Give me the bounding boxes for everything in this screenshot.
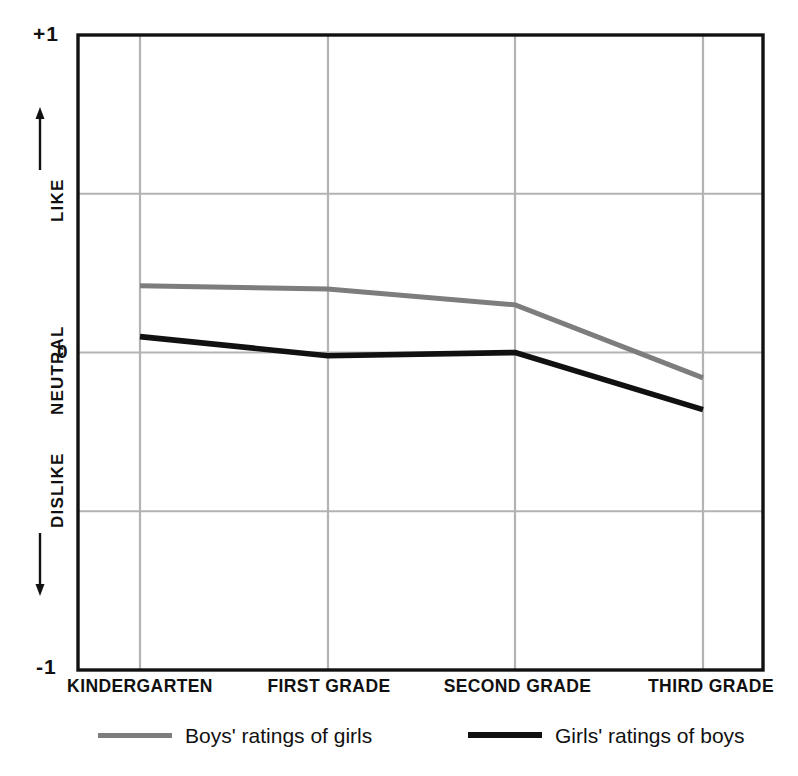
plot-area (0, 0, 798, 776)
legend-swatch-black-line-icon (468, 732, 542, 738)
legend-label-boys-ratings-of-girls: Boys' ratings of girls (185, 725, 372, 746)
y-axis-top-label: +1 (33, 22, 59, 46)
x-axis-label-first-grade: FIRST GRADE (254, 676, 404, 697)
legend-label-girls-ratings-of-boys: Girls' ratings of boys (555, 725, 745, 746)
y-axis-zero-label: 0 (57, 341, 68, 363)
line-chart: +1 -1 LIKE NEUTRAL DISLIKE 0 KINDERGARTE… (0, 0, 798, 776)
dislike-arrow-head-icon (36, 584, 45, 596)
y-axis-neutral-label: NEUTRAL (48, 325, 68, 415)
like-arrow-head-icon (36, 107, 45, 119)
legend-item-girls-ratings-of-boys: Girls' ratings of boys (468, 718, 745, 752)
legend: Boys' ratings of girls Girls' ratings of… (78, 718, 768, 758)
x-axis-label-kindergarten: KINDERGARTEN (54, 676, 226, 697)
legend-swatch-gray-line-icon (98, 733, 172, 738)
legend-item-boys-ratings-of-girls: Boys' ratings of girls (98, 718, 372, 752)
x-axis-label-second-grade: SECOND GRADE (430, 676, 605, 697)
y-axis-dislike-label: DISLIKE (48, 453, 68, 528)
series-line-boys-ratings-of-girls (140, 286, 703, 378)
x-axis-label-third-grade: THIRD GRADE (632, 676, 790, 697)
y-axis-arrows (36, 107, 45, 596)
y-axis-like-label: LIKE (48, 178, 68, 222)
